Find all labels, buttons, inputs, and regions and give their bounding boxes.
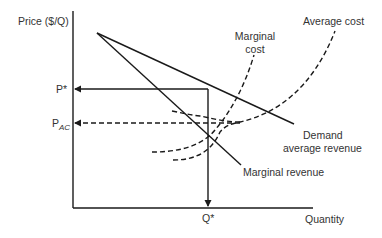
p-ac-label: PAC (52, 117, 70, 132)
demand-label-2: average revenue (283, 142, 362, 154)
marginal-revenue-label: Marginal revenue (243, 166, 324, 178)
p-ac-main: P (52, 117, 59, 129)
monopoly-diagram: Price ($/Q) Quantity P* PAC Q* Marginal … (0, 0, 382, 238)
average-cost-label: Average cost (303, 15, 364, 27)
marginal-revenue-curve (97, 33, 241, 165)
y-axis-label: Price ($/Q) (18, 15, 69, 27)
p-star-label: P* (56, 83, 67, 95)
marginal-cost-curve (152, 55, 254, 152)
x-axis-label: Quantity (305, 213, 345, 225)
marginal-cost-label-2: cost (245, 43, 264, 55)
q-star-label: Q* (202, 212, 214, 224)
average-cost-curve-left (172, 111, 240, 122)
demand-label-1: Demand (303, 129, 343, 141)
marginal-cost-label-1: Marginal (235, 30, 275, 42)
p-ac-sub: AC (58, 123, 70, 132)
